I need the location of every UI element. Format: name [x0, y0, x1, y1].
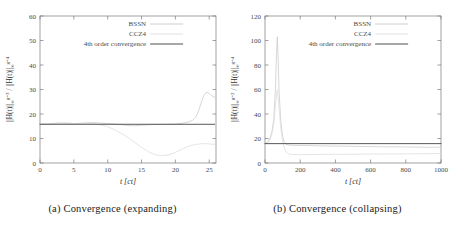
panel-a-caption: (a) Convergence (expanding) — [0, 203, 225, 214]
y-tick-label: 100 — [251, 37, 262, 45]
convergence-figure: 05101520250102030405060t [ct]||H(t)||∞g=… — [0, 0, 450, 236]
y-axis-label-text: ||H(t)||∞g=2 / ||H(t)||∞g=4 — [230, 56, 241, 122]
y-axis-label: ||H(t)||∞g=3 / ||H(t)||∞g=4 — [5, 56, 16, 122]
x-tick-label: 800 — [401, 166, 412, 174]
panel-b-convergence-collapsing: 02004006008001000020406080100120t [ct]||… — [225, 0, 450, 236]
x-tick-label: 600 — [365, 166, 376, 174]
legend-label-4th-order-convergence: 4th order convergence — [309, 40, 371, 48]
y-tick-label: 40 — [29, 62, 37, 70]
y-tick-label: 50 — [29, 37, 37, 45]
x-tick-label: 0 — [38, 166, 42, 174]
panel-a-convergence-expanding: 05101520250102030405060t [ct]||H(t)||∞g=… — [0, 0, 225, 236]
x-tick-label: 5 — [72, 166, 76, 174]
x-tick-label: 10 — [104, 166, 112, 174]
x-tick-label: 20 — [172, 166, 180, 174]
y-tick-label: 120 — [251, 13, 262, 21]
plot-b: 02004006008001000020406080100120t [ct]||… — [225, 0, 450, 200]
panel-b-caption: (b) Convergence (collapsing) — [225, 203, 450, 214]
series-ccz4 — [40, 123, 215, 156]
plot-a-svg: 05101520250102030405060t [ct]||H(t)||∞g=… — [0, 0, 225, 200]
x-tick-label: 1000 — [434, 166, 449, 174]
x-tick-label: 15 — [138, 166, 146, 174]
y-tick-label: 0 — [258, 160, 262, 168]
y-tick-label: 60 — [29, 13, 37, 21]
y-tick-label: 80 — [254, 62, 262, 70]
y-tick-label: 10 — [29, 135, 37, 143]
plot-a: 05101520250102030405060t [ct]||H(t)||∞g=… — [0, 0, 225, 200]
y-tick-label: 20 — [254, 135, 262, 143]
y-axis-label-text: ||H(t)||∞g=3 / ||H(t)||∞g=4 — [5, 56, 16, 122]
y-tick-label: 40 — [254, 111, 262, 119]
x-tick-label: 25 — [206, 166, 214, 174]
y-axis-label: ||H(t)||∞g=2 / ||H(t)||∞g=4 — [230, 56, 241, 122]
legend-label-bssn: BSSN — [129, 20, 147, 28]
legend-label-bssn: BSSN — [354, 20, 372, 28]
legend-label-ccz4: CCZ4 — [354, 30, 372, 38]
y-tick-label: 0 — [33, 160, 37, 168]
plot-b-svg: 02004006008001000020406080100120t [ct]||… — [225, 0, 450, 200]
x-tick-label: 0 — [263, 166, 267, 174]
y-tick-label: 60 — [254, 86, 262, 94]
y-tick-label: 20 — [29, 111, 37, 119]
x-axis-label: t [ct] — [345, 177, 361, 186]
legend-label-ccz4: CCZ4 — [129, 30, 147, 38]
series-bssn — [265, 37, 441, 147]
series-bssn — [40, 92, 215, 126]
legend-label-4th-order-convergence: 4th order convergence — [84, 40, 146, 48]
x-axis-label: t [ct] — [120, 177, 136, 186]
x-tick-label: 400 — [330, 166, 341, 174]
y-tick-label: 30 — [29, 86, 37, 94]
x-tick-label: 200 — [295, 166, 306, 174]
